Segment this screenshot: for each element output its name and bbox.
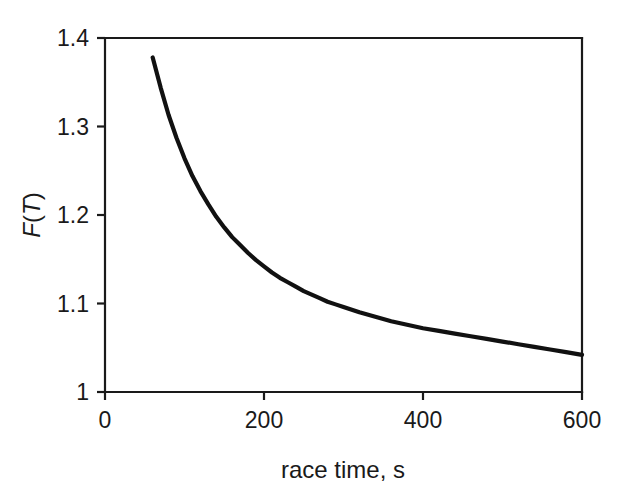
plot-canvas: 0200400600 11.11.21.31.4 race time, s F(… [0, 0, 626, 496]
x-tick-label-400: 400 [404, 407, 442, 433]
chart-figure: 0200400600 11.11.21.31.4 race time, s F(… [0, 0, 626, 496]
x-axis-title: race time, s [281, 456, 405, 483]
y-tick-label-1: 1 [76, 379, 89, 405]
y-tick-label-1.2: 1.2 [57, 202, 89, 228]
y-tick-label-1.1: 1.1 [57, 291, 89, 317]
y-tick-label-1.4: 1.4 [57, 25, 89, 51]
x-tick-label-0: 0 [99, 407, 112, 433]
x-tick-label-200: 200 [245, 407, 283, 433]
y-axis-title-text: F(T) [18, 192, 45, 237]
y-axis-title: F(T) [18, 192, 45, 237]
y-tick-label-1.3: 1.3 [57, 114, 89, 140]
x-tick-label-600: 600 [563, 407, 601, 433]
figure-background [0, 0, 626, 496]
